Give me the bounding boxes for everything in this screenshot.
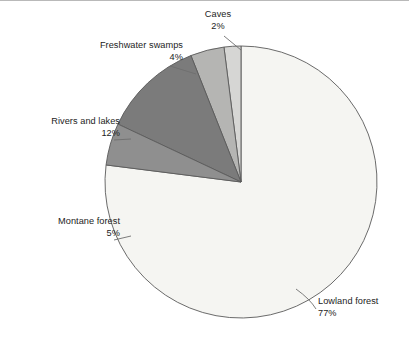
slice-label-rivers-and-lakes: Rivers and lakes 12% [8,116,120,139]
slice-label-montane-forest: Montane forest 5% [8,216,120,239]
slice-label-caves-name: Caves [178,9,258,21]
slice-label-lowland-forest-percent: 77% [318,308,408,320]
slice-label-rivers-and-lakes-name: Rivers and lakes [8,116,120,128]
slice-label-lowland-forest: Lowland forest 77% [318,296,408,319]
slice-label-caves-percent: 2% [178,21,258,33]
pie-chart-figure: Caves 2% Freshwater swamps 4% Rivers and… [0,0,409,338]
slice-label-freshwater-swamps-percent: 4% [58,52,183,64]
slice-label-montane-forest-name: Montane forest [8,216,120,228]
slice-label-freshwater-swamps-name: Freshwater swamps [58,40,183,52]
slice-label-freshwater-swamps: Freshwater swamps 4% [58,40,183,63]
slice-label-lowland-forest-name: Lowland forest [318,296,408,308]
slice-label-caves: Caves 2% [178,9,258,32]
slice-label-rivers-and-lakes-percent: 12% [8,128,120,140]
pie-slices-group [105,46,377,318]
slice-label-montane-forest-percent: 5% [8,228,120,240]
